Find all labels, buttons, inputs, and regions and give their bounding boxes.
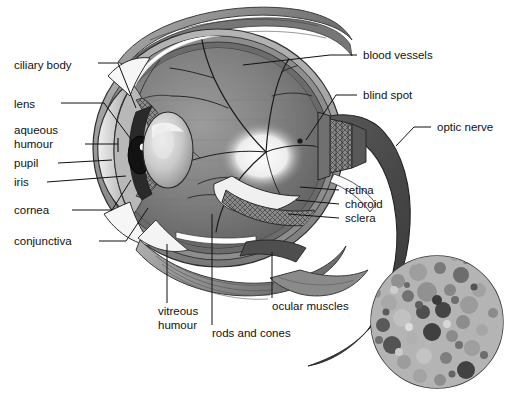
label-rods-and-cones: rods and cones: [212, 327, 291, 339]
labels-bottom-group: vitreous humour rods and cones ocular mu…: [158, 300, 349, 339]
label-aqueous-humour-line1: aqueous: [14, 124, 58, 136]
label-vitreous-humour-line1: vitreous: [158, 305, 199, 317]
rods-and-cones-inset: [371, 251, 503, 388]
label-sclera: sclera: [345, 212, 376, 224]
label-cornea: cornea: [14, 204, 50, 216]
label-pupil: pupil: [14, 157, 38, 169]
label-blood-vessels: blood vessels: [363, 49, 433, 61]
labels-left-group: ciliary body lens aqueous humour pupil i…: [14, 59, 72, 247]
label-optic-nerve: optic nerve: [437, 121, 493, 133]
label-retina: retina: [345, 184, 374, 196]
label-aqueous-humour-line2: humour: [14, 138, 53, 150]
label-lens: lens: [14, 98, 35, 110]
label-ciliary-body: ciliary body: [14, 59, 72, 71]
label-choroid: choroid: [345, 198, 383, 210]
label-vitreous-humour-line2: humour: [158, 319, 197, 331]
eye-anatomy-figure: ciliary body lens aqueous humour pupil i…: [0, 0, 506, 405]
label-conjunctiva: conjunctiva: [14, 235, 72, 247]
label-iris: iris: [14, 176, 29, 188]
label-blind-spot: blind spot: [363, 89, 413, 101]
label-ocular-muscles: ocular muscles: [272, 300, 349, 312]
eye-diagram-canvas: ciliary body lens aqueous humour pupil i…: [0, 0, 506, 405]
